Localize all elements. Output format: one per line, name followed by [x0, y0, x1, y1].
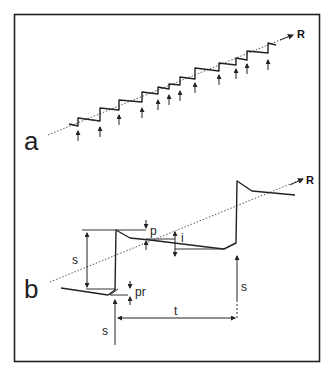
panel-a-stimulus-arrows	[78, 60, 268, 141]
panel-b-direction-label: R	[306, 174, 314, 186]
panel-a-direction-label: R	[297, 28, 305, 40]
panel-b-direction-arrow-icon	[290, 179, 303, 185]
p-label: p	[150, 224, 157, 238]
diagram-canvas: a R b R	[0, 0, 330, 372]
i-label: i	[181, 231, 184, 245]
panel-a-staircase-trace	[69, 43, 276, 126]
pr-label: pr	[135, 285, 146, 299]
s-right-label: s	[241, 280, 247, 294]
panel-a: a R	[24, 28, 305, 156]
figure-frame	[15, 15, 320, 362]
t-label: t	[174, 304, 178, 318]
panel-a-direction-arrow-icon	[280, 35, 293, 40]
panel-b-label: b	[24, 274, 38, 304]
panel-a-label: a	[24, 126, 39, 156]
s-left-label: s	[72, 253, 78, 267]
panel-b: b R s p i pr s	[24, 174, 314, 345]
s-bottom-label: s	[102, 324, 108, 338]
panel-b-trace	[61, 181, 295, 295]
